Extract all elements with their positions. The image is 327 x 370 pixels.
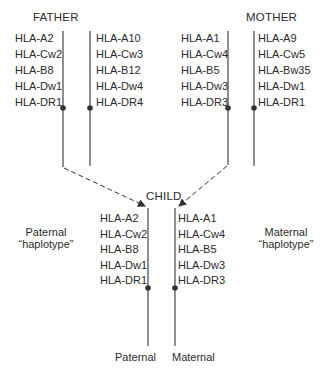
allele: HLA-Dw4 — [96, 78, 143, 94]
child-paternal-haplotype: HLA-A2 HLA-Cw2 HLA-B8 HLA-Dw1 HLA-DR1 — [100, 211, 147, 289]
mother-haplotype-1: HLA-A1 HLA-Cw4 HLA-B5 HLA-Dw3 HLA-DR3 — [181, 30, 228, 110]
allele: HLA-B5 — [178, 242, 225, 258]
label-line: “haplotype” — [256, 238, 316, 250]
allele: HLA-Dw3 — [178, 258, 225, 274]
allele: HLA-A1 — [181, 30, 228, 46]
allele: HLA-Cw2 — [15, 46, 62, 62]
paternal-inheritance-arrow — [64, 168, 145, 206]
father-title: FATHER — [33, 11, 79, 23]
allele: HLA-B12 — [96, 62, 143, 78]
mother-centromere-2 — [251, 105, 257, 111]
label-line: Paternal — [16, 226, 76, 238]
allele: HLA-Cw4 — [181, 46, 228, 62]
father-haplotype-2: HLA-A10 HLA-Cw3 HLA-B12 HLA-Dw4 HLA-DR4 — [96, 30, 143, 110]
mother-title: MOTHER — [246, 11, 297, 23]
allele: HLA-B8 — [15, 62, 62, 78]
father-centromere-2 — [87, 105, 93, 111]
allele: HLA-Dw1 — [258, 78, 311, 94]
maternal-haplotype-label: Maternal “haplotype” — [256, 226, 316, 250]
paternal-haplotype-label: Paternal “haplotype” — [16, 226, 76, 250]
allele: HLA-DR3 — [178, 273, 225, 289]
allele: HLA-B8 — [100, 242, 147, 258]
allele: HLA-DR1 — [15, 94, 62, 110]
allele: HLA-Dw3 — [181, 78, 228, 94]
child-paternal-label: Paternal — [115, 351, 156, 363]
allele: HLA-A2 — [15, 30, 62, 46]
child-centromere-maternal — [172, 285, 178, 291]
allele: HLA-Dw1 — [100, 258, 147, 274]
child-maternal-haplotype: HLA-A1 HLA-Cw4 HLA-B5 HLA-Dw3 HLA-DR3 — [178, 211, 225, 289]
allele: HLA-Bw35 — [258, 62, 311, 78]
allele: HLA-Dw1 — [15, 78, 62, 94]
allele: HLA-DR1 — [100, 273, 147, 289]
father-haplotype-1: HLA-A2 HLA-Cw2 HLA-B8 HLA-Dw1 HLA-DR1 — [15, 30, 62, 110]
label-line: “haplotype” — [16, 238, 76, 250]
allele: HLA-A1 — [178, 211, 225, 227]
allele: HLA-A9 — [258, 30, 311, 46]
child-maternal-label: Maternal — [172, 351, 215, 363]
allele: HLA-DR4 — [96, 94, 143, 110]
allele: HLA-DR1 — [258, 94, 311, 110]
allele: HLA-Cw3 — [96, 46, 143, 62]
allele: HLA-A2 — [100, 211, 147, 227]
allele: HLA-Cw5 — [258, 46, 311, 62]
label-line: Maternal — [256, 226, 316, 238]
allele: HLA-Cw2 — [100, 227, 147, 243]
allele: HLA-B5 — [181, 62, 228, 78]
allele: HLA-Cw4 — [178, 227, 225, 243]
maternal-inheritance-arrow — [179, 166, 227, 206]
allele: HLA-A10 — [96, 30, 143, 46]
mother-haplotype-2: HLA-A9 HLA-Cw5 HLA-Bw35 HLA-Dw1 HLA-DR1 — [258, 30, 311, 110]
allele: HLA-DR3 — [181, 94, 228, 110]
child-title: CHILD — [146, 190, 182, 202]
